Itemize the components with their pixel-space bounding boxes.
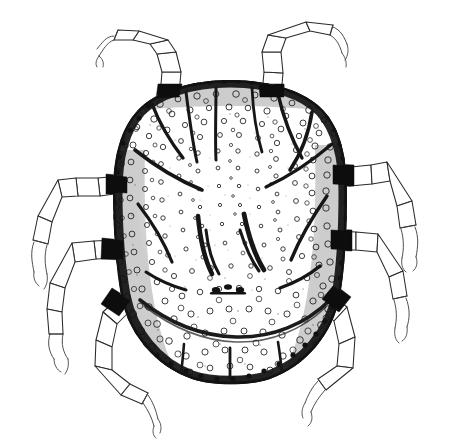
coxa-overlay-1-right: [259, 85, 284, 97]
mite-dorsal-illustration: [0, 0, 451, 444]
coxa-overlay-2-left: [108, 175, 127, 193]
coxa-overlay-2-right: [333, 165, 352, 185]
coxa-overlay-1-left: [158, 85, 181, 98]
idiosoma: [110, 78, 348, 393]
coxa-overlay-3-right: [331, 230, 350, 250]
coxa-overlay-3-left: [103, 239, 123, 259]
illustration-figure: [0, 0, 451, 444]
